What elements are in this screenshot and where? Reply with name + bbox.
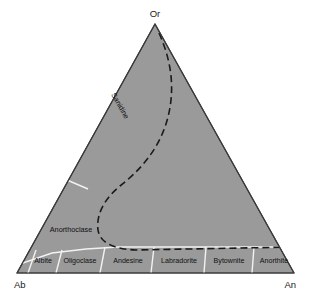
vertex-label-an: An — [284, 279, 296, 290]
vertex-label-ab: Ab — [14, 279, 26, 290]
ternary-diagram-figure: Or Ab An Sanidine Anorthoclase Albite Ol… — [0, 0, 311, 299]
field-label-anorthoclase: Anorthoclase — [50, 225, 93, 234]
field-label-andesine: Andesine — [113, 257, 143, 265]
field-label-anorthite: Anorthite — [260, 257, 288, 265]
field-label-bytownite: Bytownite — [214, 257, 245, 265]
ternary-triangle-fill — [17, 24, 294, 273]
vertex-label-or: Or — [150, 8, 161, 19]
ternary-diagram-svg: Or Ab An Sanidine Anorthoclase Albite Ol… — [0, 0, 311, 299]
field-label-albite: Albite — [34, 257, 52, 265]
field-label-labradorite: Labradorite — [161, 257, 197, 265]
field-label-oligoclase: Oligoclase — [63, 257, 96, 265]
